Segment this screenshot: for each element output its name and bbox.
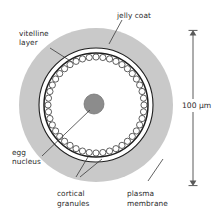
- cortical-granule: [67, 62, 73, 68]
- cortical-granule: [119, 62, 125, 68]
- label-jelly-coat: jelly coat: [117, 11, 151, 20]
- cortical-granule: [45, 109, 51, 115]
- cortical-granule: [53, 76, 59, 82]
- cortical-granule: [106, 148, 112, 154]
- cortical-granule: [61, 66, 67, 72]
- cortical-granule: [129, 133, 135, 139]
- label-plasma-membrane-line2: membrane: [127, 199, 168, 208]
- leader-line-plasma-membrane: [148, 159, 163, 181]
- cortical-granule: [139, 115, 145, 121]
- cortical-granule: [141, 102, 147, 108]
- cortical-granule: [100, 149, 106, 155]
- cortical-granule: [137, 82, 143, 88]
- cortical-granule: [140, 109, 146, 115]
- cortical-granule: [47, 115, 53, 121]
- cortical-granule: [106, 56, 112, 62]
- cortical-granule: [61, 138, 67, 144]
- cortical-granule: [79, 148, 85, 154]
- cortical-granule: [124, 66, 130, 72]
- cortical-granule: [79, 56, 85, 62]
- cortical-granule: [57, 70, 63, 76]
- cortical-granule: [129, 70, 135, 76]
- cortical-granule: [140, 95, 146, 101]
- cortical-granule: [49, 122, 55, 128]
- cortical-granule: [133, 76, 139, 82]
- cortical-granule: [73, 146, 79, 152]
- label-plasma-membrane-line1: plasma: [127, 189, 154, 198]
- cortical-granule: [86, 149, 92, 155]
- cortical-granule: [45, 95, 51, 101]
- cortical-granule: [139, 88, 145, 94]
- label-vitelline-layer-line2: layer: [19, 38, 38, 47]
- cortical-granule: [73, 58, 79, 64]
- label-cortical-granules-line2: granules: [57, 199, 89, 208]
- cortical-granule: [119, 142, 125, 148]
- cortical-granule: [133, 128, 139, 134]
- cortical-granule: [100, 54, 106, 60]
- egg-nucleus-shape: [84, 94, 104, 114]
- label-egg-nucleus-line1: egg: [12, 148, 26, 157]
- label-egg-nucleus-line2: nucleus: [12, 157, 41, 166]
- cortical-granule: [86, 54, 92, 60]
- cortical-granule: [113, 58, 119, 64]
- cortical-granule: [137, 122, 143, 128]
- cortical-granule: [53, 128, 59, 134]
- cortical-granule: [47, 88, 53, 94]
- cortical-granule: [93, 150, 99, 156]
- cortical-granule: [113, 146, 119, 152]
- cortical-granule: [49, 82, 55, 88]
- cortical-granule: [45, 102, 51, 108]
- cortical-granule: [124, 138, 130, 144]
- label-vitelline-layer-line1: vitelline: [19, 29, 49, 38]
- cortical-granule: [67, 142, 73, 148]
- cortical-granule: [93, 54, 99, 60]
- label-scale-bar-value: 100 µm: [182, 101, 211, 110]
- egg-cell-diagram: jelly coat vitelline layer egg nucleus c…: [0, 0, 219, 214]
- label-cortical-granules-line1: cortical: [57, 189, 85, 198]
